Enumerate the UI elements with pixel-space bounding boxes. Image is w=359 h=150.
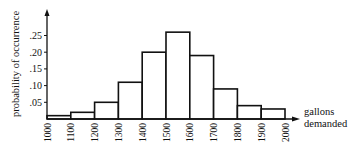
histogram-bars xyxy=(47,32,285,119)
histogram-bar xyxy=(237,106,261,119)
y-axis-arrow-icon xyxy=(45,9,50,16)
x-tick-label: 1200 xyxy=(90,123,100,142)
histogram-bar xyxy=(71,112,95,119)
histogram-bar xyxy=(118,82,142,119)
y-tick-label: .15 xyxy=(30,63,43,74)
histogram-bar xyxy=(214,89,238,119)
y-tick-label: .20 xyxy=(30,47,43,58)
histogram-bar xyxy=(95,102,119,119)
y-axis-label: probability of occurrence xyxy=(10,11,21,117)
x-axis-arrow-icon xyxy=(292,117,300,122)
x-ticks: 1000110012001300140015001600170018001900… xyxy=(43,123,291,142)
y-tick-label: .05 xyxy=(30,97,43,108)
histogram-bar xyxy=(166,32,190,119)
x-tick-label: 1800 xyxy=(233,123,243,142)
histogram-bar xyxy=(261,109,285,119)
x-axis-label-line1: gallons xyxy=(304,106,334,117)
x-tick-label: 1500 xyxy=(162,123,172,142)
histogram-chart: .05.10.15.20.25 100011001200130014001500… xyxy=(0,0,359,150)
x-tick-label: 2000 xyxy=(281,123,291,142)
y-tick-label: .10 xyxy=(30,80,43,91)
x-tick-label: 1000 xyxy=(43,123,53,142)
x-tick-label: 1700 xyxy=(209,123,219,142)
y-ticks: .05.10.15.20.25 xyxy=(30,30,48,108)
x-tick-label: 1600 xyxy=(185,123,195,142)
y-tick-label: .25 xyxy=(30,30,43,41)
histogram-bar xyxy=(190,56,214,119)
x-tick-label: 1100 xyxy=(66,123,76,142)
x-tick-label: 1300 xyxy=(114,123,124,142)
x-tick-label: 1900 xyxy=(257,123,267,142)
histogram-bar xyxy=(142,52,166,119)
x-axis-label-line2: demanded xyxy=(304,118,348,129)
x-tick-label: 1400 xyxy=(138,123,148,142)
